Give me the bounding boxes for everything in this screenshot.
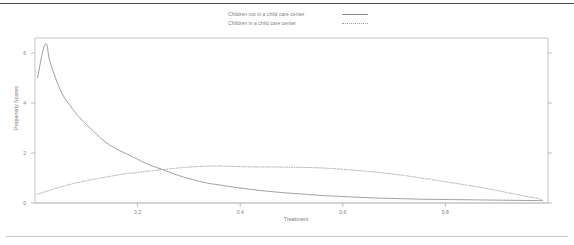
y-axis-ticks xyxy=(31,53,552,203)
series-line-not-in-center xyxy=(38,44,543,201)
x-axis-label: Treatment xyxy=(256,215,336,223)
x-tick-label: 0.2 xyxy=(127,209,149,216)
y-tick-label: 4 xyxy=(12,100,26,107)
y-tick-label: 2 xyxy=(12,150,26,157)
x-tick-label: 0.8 xyxy=(434,209,456,216)
y-tick-label: 6 xyxy=(12,50,26,57)
x-tick-label: 0.6 xyxy=(332,209,354,216)
plot-frame xyxy=(35,38,548,203)
chart-figure: Children not in a child care center Chil… xyxy=(0,0,574,245)
y-axis-label: Propensity Scores xyxy=(12,73,20,143)
series-line-in-center xyxy=(38,166,543,200)
y-tick-label: 0 xyxy=(12,200,26,207)
x-tick-label: 0.4 xyxy=(229,209,251,216)
bottom-divider xyxy=(6,236,568,237)
x-axis-ticks xyxy=(138,203,446,207)
chart-canvas xyxy=(0,0,574,245)
